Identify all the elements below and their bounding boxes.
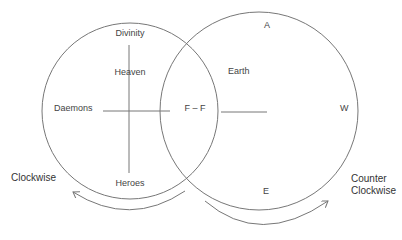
label-earth: Earth (228, 67, 250, 76)
label-heaven: Heaven (114, 68, 145, 77)
label-counter-clockwise: Clockwise (351, 186, 396, 196)
label-e: E (263, 187, 269, 196)
label-divinity: Divinity (115, 29, 144, 38)
label-heroes: Heroes (115, 179, 144, 188)
label-a: A (264, 21, 270, 30)
label-intersection: F – F (184, 104, 205, 113)
label-counter: Counter (351, 174, 387, 184)
venn-diagram-canvas (0, 0, 402, 240)
label-daemons: Daemons (54, 104, 93, 113)
label-clockwise: Clockwise (11, 173, 56, 183)
label-w: W (340, 104, 349, 113)
clockwise-arrow (73, 191, 185, 210)
counter-clockwise-arrow (205, 201, 328, 225)
